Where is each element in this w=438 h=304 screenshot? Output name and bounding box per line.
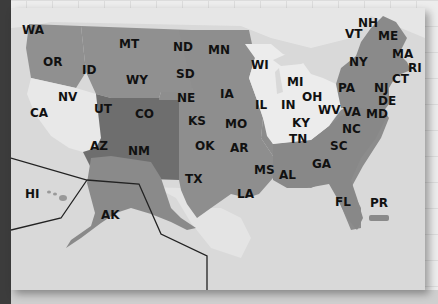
state-label-mt: MT [119, 38, 139, 50]
state-label-mn: MN [208, 44, 230, 56]
bottom-edge-strip [11, 290, 438, 304]
state-label-co: CO [135, 108, 154, 120]
state-label-pr: PR [370, 197, 388, 209]
state-label-ny: NY [349, 56, 368, 68]
state-label-nh: NH [358, 17, 378, 29]
state-label-mo: MO [225, 118, 247, 130]
state-label-fl: FL [335, 196, 351, 208]
state-label-id: ID [82, 64, 96, 76]
puerto-rico-shape [369, 215, 389, 221]
state-label-nd: ND [173, 41, 193, 53]
state-label-me: ME [378, 30, 398, 42]
state-label-la: LA [237, 188, 254, 200]
state-label-in: IN [281, 99, 296, 111]
left-edge-strip [0, 0, 11, 304]
state-label-mi: MI [287, 76, 303, 88]
state-label-md: MD [366, 108, 388, 120]
state-label-oh: OH [302, 91, 322, 103]
state-label-ma: MA [392, 48, 413, 60]
state-label-nj: NJ [374, 82, 389, 94]
state-label-de: DE [378, 95, 396, 107]
state-label-ga: GA [312, 158, 331, 170]
state-label-hi: HI [25, 188, 40, 200]
state-label-il: IL [255, 99, 267, 111]
state-label-ut: UT [94, 103, 112, 115]
state-label-wv: WV [318, 104, 341, 116]
state-label-ne: NE [177, 92, 195, 104]
hawaii-island [59, 195, 67, 201]
state-label-ct: CT [392, 73, 409, 85]
state-label-ca: CA [30, 107, 48, 119]
state-label-al: AL [279, 169, 296, 181]
hawaii-island [47, 191, 51, 194]
state-label-pa: PA [338, 82, 355, 94]
state-label-nv: NV [58, 91, 77, 103]
hawaii-island [53, 193, 57, 196]
us-map: WAORIDMTWYNVCAUTCOAZNMNDSDNEKSOKTXMNIAMO… [11, 8, 425, 290]
state-label-ak: AK [101, 209, 120, 221]
state-label-sd: SD [176, 68, 195, 80]
state-label-ms: MS [254, 164, 275, 176]
state-label-wi: WI [251, 59, 269, 71]
state-label-nc: NC [342, 123, 361, 135]
state-label-ia: IA [220, 88, 234, 100]
state-label-tn: TN [289, 133, 307, 145]
state-label-or: OR [43, 56, 62, 68]
state-label-nm: NM [128, 145, 150, 157]
state-label-va: VA [343, 106, 361, 118]
state-label-az: AZ [90, 140, 108, 152]
state-label-wa: WA [22, 24, 44, 36]
state-label-ok: OK [195, 140, 215, 152]
state-label-tx: TX [185, 173, 202, 185]
state-label-ks: KS [188, 115, 206, 127]
state-label-ri: RI [408, 62, 422, 74]
state-label-ky: KY [292, 117, 310, 129]
state-label-wy: WY [126, 74, 148, 86]
state-label-ar: AR [230, 142, 249, 154]
state-label-sc: SC [330, 140, 347, 152]
